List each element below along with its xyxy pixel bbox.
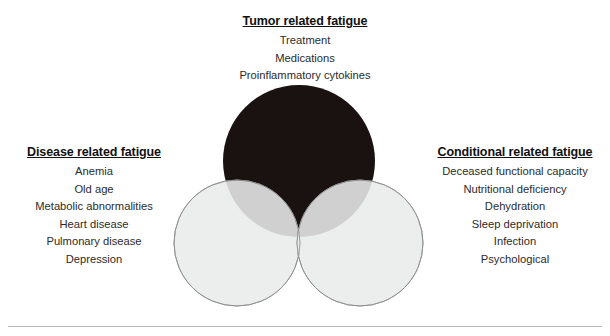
set-label-tumor: Tumor related fatigue Treatment Medicati… — [165, 13, 445, 85]
set-title-disease: Disease related fatigue — [0, 144, 188, 160]
set-item: Psychological — [420, 251, 610, 269]
set-item: Nutritional deficiency — [420, 181, 610, 199]
set-label-conditional: Conditional related fatigue Deceased fun… — [420, 144, 610, 268]
set-item: Old age — [0, 181, 188, 199]
set-item: Infection — [420, 233, 610, 251]
set-label-disease: Disease related fatigue Anemia Old age M… — [0, 144, 188, 268]
set-title-tumor: Tumor related fatigue — [165, 13, 445, 29]
set-item: Dehydration — [420, 198, 610, 216]
set-item: Medications — [165, 50, 445, 68]
set-item: Deceased functional capacity — [420, 163, 610, 181]
set-item: Sleep deprivation — [420, 216, 610, 234]
set-item: Metabolic abnormalities — [0, 198, 188, 216]
set-item: Heart disease — [0, 216, 188, 234]
venn-diagram-figure: Tumor related fatigue Treatment Medicati… — [0, 0, 610, 336]
set-item: Anemia — [0, 163, 188, 181]
circle-disease — [174, 180, 300, 306]
set-item: Proinflammatory cytokines — [165, 67, 445, 85]
set-item: Depression — [0, 251, 188, 269]
set-title-conditional: Conditional related fatigue — [420, 144, 610, 160]
circle-conditional — [297, 180, 423, 306]
set-item: Pulmonary disease — [0, 233, 188, 251]
footer-divider — [8, 326, 602, 327]
set-item: Treatment — [165, 32, 445, 50]
